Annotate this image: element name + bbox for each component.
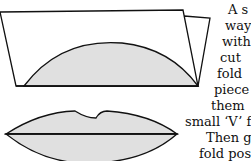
text-line: way <box>225 18 251 33</box>
instruction-text: A s way with cut fold piece them small ‘… <box>0 0 251 161</box>
text-line: them <box>211 98 245 113</box>
text-line: Then gl <box>206 130 251 145</box>
text-line: cut <box>220 50 241 65</box>
text-line: piece <box>214 82 249 97</box>
text-line: with <box>222 34 251 49</box>
text-line: A s <box>228 2 248 17</box>
text-line: small ‘V’ fr <box>185 114 251 129</box>
text-line: fold <box>217 66 242 81</box>
text-line: fold posit <box>199 146 251 161</box>
